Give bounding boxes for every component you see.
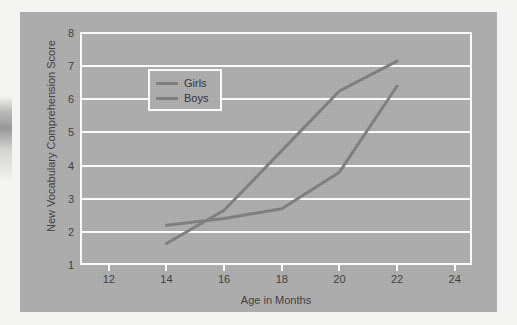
- x-tick-18: [281, 264, 283, 271]
- x-tick-20: [338, 264, 340, 271]
- x-tick-label-12: 12: [92, 274, 126, 285]
- chart-figure-panel: 12345678 New Vocabulary Comprehension Sc…: [20, 12, 497, 312]
- legend-swatch-girls-icon: [156, 82, 178, 85]
- x-tick-22: [396, 264, 398, 271]
- legend-label-boys: Boys: [184, 93, 208, 104]
- x-tick-label-18: 18: [265, 274, 299, 285]
- chart-legend: Girls Boys: [148, 69, 222, 111]
- x-tick-label-20: 20: [322, 274, 356, 285]
- x-axis-title: Age in Months: [80, 294, 472, 306]
- x-tick-14: [165, 264, 167, 271]
- y-tick-label-1: 1: [52, 260, 74, 271]
- legend-item-boys: Boys: [156, 91, 220, 106]
- x-tick-label-24: 24: [438, 274, 472, 285]
- legend-item-girls: Girls: [156, 76, 220, 91]
- series-lines: [80, 33, 472, 265]
- x-axis-tick-labels: 12141618202224: [80, 274, 472, 290]
- x-tick-label-14: 14: [149, 274, 183, 285]
- legend-label-girls: Girls: [184, 78, 207, 89]
- x-tick-16: [223, 264, 225, 271]
- x-tick-label-16: 16: [207, 274, 241, 285]
- legend-swatch-boys-icon: [156, 97, 178, 100]
- y-axis-title: New Vocabulary Comprehension Score: [45, 21, 57, 251]
- x-tick-label-22: 22: [380, 274, 414, 285]
- scan-edge-artifact: [0, 96, 12, 182]
- plot-area: Girls Boys: [80, 33, 472, 265]
- x-tick-24: [454, 264, 456, 271]
- x-tick-12: [108, 264, 110, 271]
- page-background: 12345678 New Vocabulary Comprehension Sc…: [0, 0, 517, 325]
